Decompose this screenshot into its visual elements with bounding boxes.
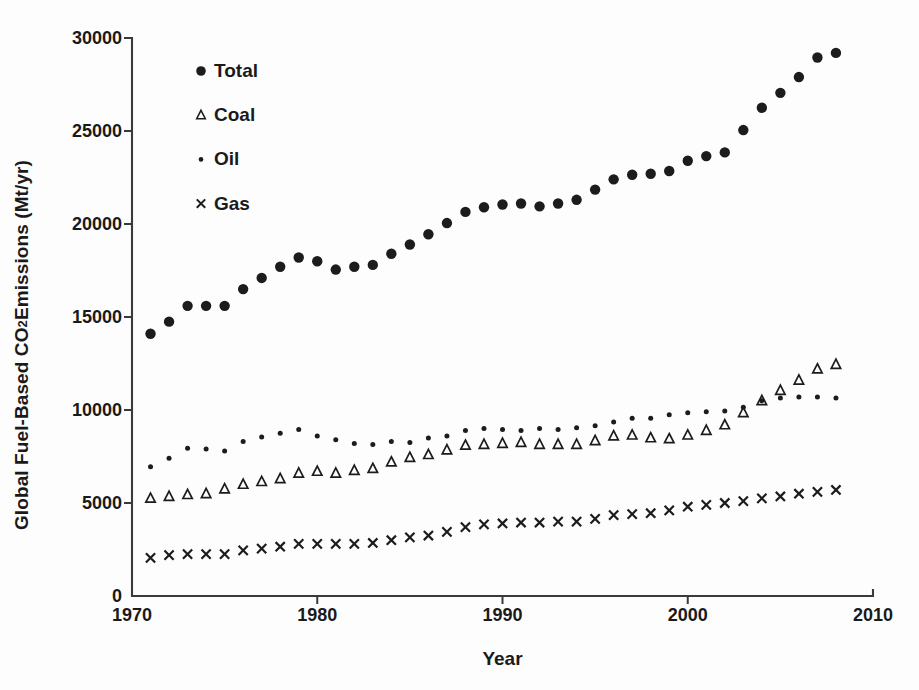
data-point-marker-small-dot bbox=[667, 412, 672, 417]
data-point-marker-filled-circle bbox=[331, 264, 341, 274]
data-point-marker-open-triangle bbox=[553, 439, 562, 448]
data-point-marker-x-cross bbox=[294, 539, 303, 548]
data-point-marker-small-dot bbox=[296, 427, 301, 432]
data-point-marker-open-triangle bbox=[535, 439, 544, 448]
data-point-marker-open-triangle bbox=[665, 433, 674, 442]
data-point-marker-open-triangle bbox=[646, 433, 655, 442]
data-point-marker-small-dot bbox=[278, 431, 283, 436]
data-point-marker-open-triangle bbox=[424, 449, 433, 458]
data-point-marker-small-dot bbox=[333, 437, 338, 442]
data-point-marker-filled-circle bbox=[256, 273, 266, 283]
data-point-marker-open-triangle bbox=[831, 359, 840, 368]
series-gas bbox=[146, 485, 841, 562]
data-point-marker-open-triangle bbox=[720, 420, 729, 429]
data-point-marker-filled-circle bbox=[238, 284, 248, 294]
data-point-marker-filled-circle bbox=[201, 301, 211, 311]
data-point-marker-x-cross bbox=[665, 506, 674, 515]
data-point-marker-x-cross bbox=[257, 544, 266, 553]
data-point-marker-small-dot bbox=[574, 425, 579, 430]
data-point-marker-open-triangle bbox=[627, 430, 636, 439]
data-point-marker-small-dot bbox=[500, 427, 505, 432]
data-point-marker-x-cross bbox=[646, 509, 655, 518]
data-point-marker-open-triangle bbox=[590, 435, 599, 444]
data-point-marker-small-dot bbox=[815, 394, 820, 399]
data-point-marker-x-cross bbox=[535, 518, 544, 527]
data-point-marker-x-cross bbox=[331, 539, 340, 548]
data-point-marker-small-dot bbox=[593, 423, 598, 428]
data-point-marker-filled-circle bbox=[386, 249, 396, 259]
plot-area bbox=[0, 0, 919, 690]
data-point-marker-x-cross bbox=[479, 520, 488, 529]
data-point-marker-x-cross bbox=[516, 518, 525, 527]
data-point-marker-small-dot bbox=[556, 427, 561, 432]
data-point-marker-filled-circle bbox=[145, 329, 155, 339]
data-point-marker-small-dot bbox=[352, 441, 357, 446]
data-point-marker-x-cross bbox=[572, 517, 581, 526]
data-point-marker-filled-circle bbox=[182, 301, 192, 311]
data-point-marker-open-triangle bbox=[183, 489, 192, 498]
data-point-marker-small-dot bbox=[481, 426, 486, 431]
data-point-marker-x-cross bbox=[702, 500, 711, 509]
data-point-marker-open-triangle bbox=[257, 476, 266, 485]
data-point-marker-x-cross bbox=[368, 538, 377, 547]
data-point-marker-open-triangle bbox=[368, 463, 377, 472]
data-point-marker-filled-circle bbox=[831, 48, 841, 58]
data-point-marker-x-cross bbox=[146, 553, 155, 562]
data-point-marker-filled-circle bbox=[349, 262, 359, 272]
data-point-marker-x-cross bbox=[831, 485, 840, 494]
data-point-marker-open-triangle bbox=[794, 375, 803, 384]
data-point-marker-small-dot bbox=[185, 446, 190, 451]
data-point-marker-small-dot bbox=[241, 439, 246, 444]
data-point-marker-filled-circle bbox=[590, 184, 600, 194]
data-point-marker-open-triangle bbox=[201, 488, 210, 497]
series-oil bbox=[148, 394, 838, 469]
data-point-marker-small-dot bbox=[519, 428, 524, 433]
data-point-marker-filled-circle bbox=[701, 151, 711, 161]
data-point-marker-small-dot bbox=[407, 440, 412, 445]
data-point-marker-x-cross bbox=[498, 519, 507, 528]
data-point-marker-x-cross bbox=[609, 510, 618, 519]
data-point-marker-small-dot bbox=[722, 408, 727, 413]
data-point-marker-x-cross bbox=[553, 517, 562, 526]
data-point-marker-x-cross bbox=[239, 546, 248, 555]
data-point-marker-x-cross bbox=[461, 523, 470, 532]
data-point-marker-small-dot bbox=[648, 416, 653, 421]
data-point-marker-filled-circle bbox=[738, 125, 748, 135]
data-point-marker-open-triangle bbox=[387, 457, 396, 466]
data-point-marker-filled-circle bbox=[757, 103, 767, 113]
data-point-marker-filled-circle bbox=[368, 260, 378, 270]
data-point-marker-small-dot bbox=[426, 435, 431, 440]
data-point-marker-x-cross bbox=[720, 498, 729, 507]
data-point-marker-x-cross bbox=[183, 550, 192, 559]
data-point-marker-open-triangle bbox=[683, 430, 692, 439]
data-point-marker-filled-circle bbox=[571, 195, 581, 205]
data-point-marker-small-dot bbox=[148, 464, 153, 469]
data-point-marker-x-cross bbox=[442, 527, 451, 536]
data-point-marker-open-triangle bbox=[405, 452, 414, 461]
data-point-marker-open-triangle bbox=[350, 465, 359, 474]
data-point-marker-small-dot bbox=[759, 398, 764, 403]
data-point-marker-small-dot bbox=[611, 420, 616, 425]
data-point-marker-filled-circle bbox=[275, 262, 285, 272]
data-point-marker-filled-circle bbox=[312, 256, 322, 266]
data-point-marker-open-triangle bbox=[516, 437, 525, 446]
data-point-marker-x-cross bbox=[350, 539, 359, 548]
data-point-marker-filled-circle bbox=[294, 252, 304, 262]
data-point-marker-filled-circle bbox=[442, 218, 452, 228]
data-point-marker-open-triangle bbox=[294, 468, 303, 477]
data-point-marker-open-triangle bbox=[498, 438, 507, 447]
legend-label-gas: Gas bbox=[214, 193, 250, 215]
data-point-marker-open-triangle bbox=[702, 425, 711, 434]
data-point-marker-open-triangle bbox=[479, 439, 488, 448]
data-point-marker-small-dot bbox=[796, 394, 801, 399]
data-point-marker-x-cross bbox=[276, 542, 285, 551]
data-point-marker-filled-circle bbox=[608, 174, 618, 184]
data-point-marker-open-triangle bbox=[313, 466, 322, 475]
data-point-marker-small-dot bbox=[704, 409, 709, 414]
data-point-marker-filled-circle bbox=[423, 229, 433, 239]
data-point-marker-filled-circle bbox=[460, 207, 470, 217]
data-point-marker-open-triangle bbox=[776, 385, 785, 394]
data-point-marker-filled-circle bbox=[683, 156, 693, 166]
data-point-marker-open-triangle bbox=[572, 439, 581, 448]
data-point-marker-x-cross bbox=[202, 550, 211, 559]
